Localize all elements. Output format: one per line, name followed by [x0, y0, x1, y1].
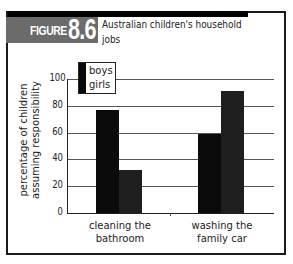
plot-area: 0 20 40 60 80 100 [67, 79, 274, 213]
y-tick: 20 [49, 179, 63, 190]
y-tick: 60 [49, 126, 63, 137]
x-tick-divider [170, 213, 171, 216]
y-axis-label-line1: percentage of children [18, 65, 30, 215]
chart-title-line1: Australian children's household [102, 17, 264, 32]
legend: boys girls [78, 62, 116, 94]
y-axis-label-line2: assuming responsibility [30, 65, 42, 215]
legend-boys: boys [89, 64, 113, 77]
legend-swatch [79, 63, 86, 93]
x-label-line1: cleaning the [80, 219, 160, 232]
x-label-line2: family car [182, 232, 262, 245]
bar-girls-washing-car [221, 91, 244, 213]
figure-word: FIGURE [30, 23, 67, 38]
bar-boys-cleaning-bathroom [96, 110, 119, 213]
legend-girls: girls [89, 78, 110, 91]
x-label-washing-car: washing the family car [182, 219, 262, 245]
bar-boys-washing-car [198, 134, 221, 213]
chart-title: Australian children's household jobs [102, 17, 264, 47]
figure-label: FIGURE 8.6 [6, 17, 98, 43]
bar-girls-cleaning-bathroom [119, 170, 142, 213]
x-label-line1: washing the [182, 219, 262, 232]
y-tick: 80 [49, 99, 63, 110]
x-label-line2: bathroom [80, 232, 160, 245]
chart-title-line2: jobs [102, 32, 264, 47]
figure-number: 8.6 [68, 14, 96, 44]
y-tick: 40 [49, 152, 63, 163]
y-axis-label: percentage of children assuming responsi… [18, 65, 42, 215]
y-tick: 0 [49, 206, 63, 217]
y-axis [67, 79, 68, 214]
y-tick: 100 [49, 72, 63, 83]
x-label-cleaning-bathroom: cleaning the bathroom [80, 219, 160, 245]
